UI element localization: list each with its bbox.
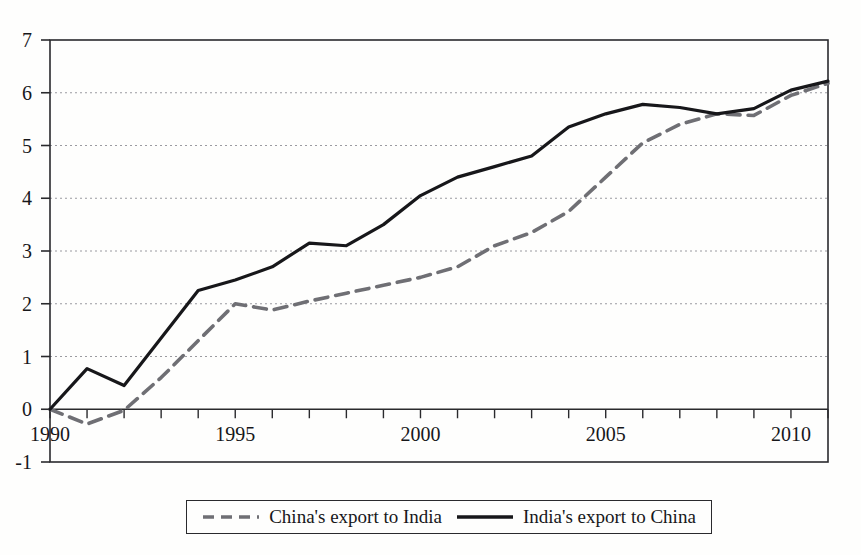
legend-label-india-export: India's export to China: [523, 506, 696, 528]
y-tick-label: -1: [0, 451, 32, 474]
x-tick-label: 2000: [380, 423, 460, 446]
chart-plot-area: [0, 0, 861, 555]
x-axis-ticks: [50, 409, 828, 418]
legend-entry-india-export: India's export to China: [456, 506, 696, 528]
y-tick-label: 3: [0, 240, 32, 263]
x-tick-label: 1990: [10, 423, 90, 446]
data-series: [50, 81, 828, 424]
x-tick-label: 1995: [195, 423, 275, 446]
legend-line-dashed-icon: [202, 512, 260, 522]
y-tick-label: 1: [0, 345, 32, 368]
y-tick-label: 2: [0, 292, 32, 315]
y-tick-label: 4: [0, 187, 32, 210]
y-tick-label: 0: [0, 398, 32, 421]
y-tick-label: 7: [0, 29, 32, 52]
legend-line-solid-icon: [456, 512, 514, 522]
chart-figure: -101234567 19901995200020052010 China's …: [0, 0, 861, 555]
chart-legend: China's export to India India's export t…: [186, 500, 712, 534]
y-tick-label: 6: [0, 81, 32, 104]
y-tick-label: 5: [0, 134, 32, 157]
y-axis-ticks: [41, 40, 50, 462]
x-tick-label: 2005: [566, 423, 646, 446]
legend-label-china-export: China's export to India: [269, 506, 442, 528]
gridlines: [50, 93, 828, 357]
x-tick-label: 2010: [751, 423, 831, 446]
legend-entry-china-export: China's export to India: [202, 506, 442, 528]
